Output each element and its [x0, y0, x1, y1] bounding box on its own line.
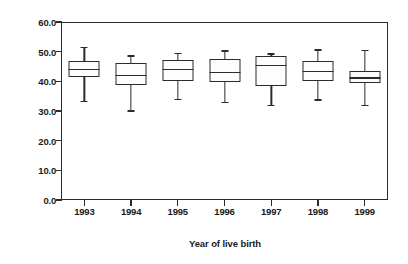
y-tick-label-2: 20.0 — [12, 135, 56, 146]
median-line-1997 — [256, 65, 287, 66]
median-line-1996 — [209, 72, 240, 73]
lower-whisker-1997 — [271, 86, 272, 105]
lower-whisker-1993 — [84, 77, 85, 100]
y-tick-mark-4 — [56, 81, 62, 82]
lower-whisker-cap-1994 — [128, 110, 135, 111]
lower-whisker-cap-1995 — [174, 99, 181, 100]
box-iqr-1996 — [209, 59, 240, 82]
lower-whisker-1996 — [224, 82, 225, 102]
x-tick-label-1999: 1999 — [342, 206, 388, 217]
y-tick-mark-1 — [56, 170, 62, 171]
x-tick-label-1995: 1995 — [155, 206, 201, 217]
x-tick-label-1996: 1996 — [202, 206, 248, 217]
lower-whisker-cap-1997 — [268, 105, 275, 106]
box-iqr-1995 — [162, 60, 193, 81]
lower-whisker-1995 — [177, 81, 178, 99]
upper-whisker-1999 — [364, 50, 365, 71]
x-tick-mark-1998 — [317, 200, 318, 206]
y-tick-label-1: 10.0 — [12, 165, 56, 176]
y-tick-label-3: 30.0 — [12, 106, 56, 117]
median-line-1998 — [302, 71, 333, 72]
upper-whisker-cap-1997 — [268, 53, 275, 54]
x-tick-mark-1995 — [177, 200, 178, 206]
y-tick-mark-2 — [56, 140, 62, 141]
lower-whisker-cap-1996 — [221, 102, 228, 103]
y-tick-label-0: 0.0 — [12, 195, 56, 206]
upper-whisker-cap-1998 — [314, 49, 321, 50]
upper-whisker-cap-1993 — [81, 47, 88, 48]
box-iqr-1997 — [256, 56, 287, 86]
box-plot-chart: Percentage of live births unintended 0.0… — [0, 0, 408, 264]
upper-whisker-1993 — [84, 47, 85, 61]
x-tick-mark-1994 — [130, 200, 131, 206]
x-tick-mark-1993 — [84, 200, 85, 206]
median-line-1995 — [162, 69, 193, 70]
x-tick-mark-1997 — [271, 200, 272, 206]
lower-whisker-cap-1999 — [361, 105, 368, 106]
lower-whisker-1998 — [317, 81, 318, 99]
y-tick-label-4: 40.0 — [12, 76, 56, 87]
upper-whisker-cap-1999 — [361, 50, 368, 51]
median-line-1994 — [116, 75, 147, 76]
y-tick-mark-0 — [56, 199, 62, 200]
y-tick-label-5: 50.0 — [12, 46, 56, 57]
lower-whisker-cap-1993 — [81, 101, 88, 102]
upper-whisker-cap-1995 — [174, 53, 181, 54]
upper-whisker-1998 — [317, 49, 318, 60]
upper-whisker-cap-1996 — [221, 50, 228, 51]
y-tick-mark-5 — [56, 51, 62, 52]
median-line-1993 — [69, 69, 100, 70]
plot-area — [61, 22, 388, 200]
x-tick-label-1997: 1997 — [248, 206, 294, 217]
x-tick-label-1994: 1994 — [108, 206, 154, 217]
y-tick-label-6: 60.0 — [12, 17, 56, 28]
upper-whisker-cap-1994 — [128, 55, 135, 56]
y-tick-mark-6 — [56, 21, 62, 22]
x-tick-mark-1996 — [224, 200, 225, 206]
x-tick-label-1993: 1993 — [61, 206, 107, 217]
lower-whisker-1994 — [130, 85, 131, 110]
y-tick-mark-3 — [56, 110, 62, 111]
lower-whisker-1999 — [364, 83, 365, 106]
median-line-1999 — [349, 77, 380, 78]
x-axis-title: Year of live birth — [60, 238, 390, 249]
x-tick-label-1998: 1998 — [295, 206, 341, 217]
lower-whisker-cap-1998 — [314, 99, 321, 100]
x-tick-mark-1999 — [364, 200, 365, 206]
